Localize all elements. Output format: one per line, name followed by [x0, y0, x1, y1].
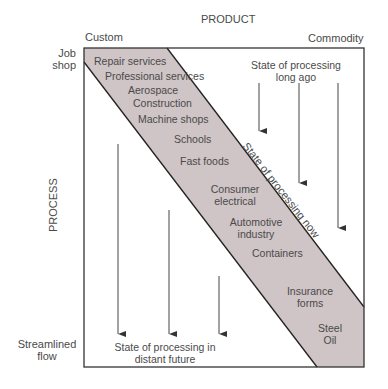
band-item-insurance-forms: Insurance forms [280, 285, 340, 309]
processing-now-band [84, 48, 364, 367]
band-item: Professional services [105, 70, 204, 82]
band-item: Aerospace [128, 84, 178, 96]
process-streamlined-label: Streamlined flow [12, 338, 82, 362]
band-item-automotive-industry: Automotive industry [221, 216, 291, 240]
band-item: Containers [252, 247, 303, 259]
past-annotation: State of processing long ago [248, 59, 344, 83]
band-item: Fast foods [180, 155, 229, 167]
band-item-steel-oil: Steel Oil [310, 322, 350, 346]
product-commodity-label: Commodity [308, 32, 364, 44]
band-item-consumer-electrical: Consumer electrical [200, 183, 270, 207]
product-axis-title: PRODUCT [201, 13, 255, 25]
band-item: Repair services [94, 55, 166, 67]
band-item: Construction [133, 97, 192, 109]
future-annotation: State of processing in distant future [110, 341, 220, 365]
process-axis-title: PROCESS [47, 178, 59, 232]
band-item: Machine shops [138, 113, 209, 125]
band-item: Schools [174, 133, 211, 145]
process-job-shop-label: Job shop [40, 47, 76, 71]
product-custom-label: Custom [85, 31, 123, 43]
